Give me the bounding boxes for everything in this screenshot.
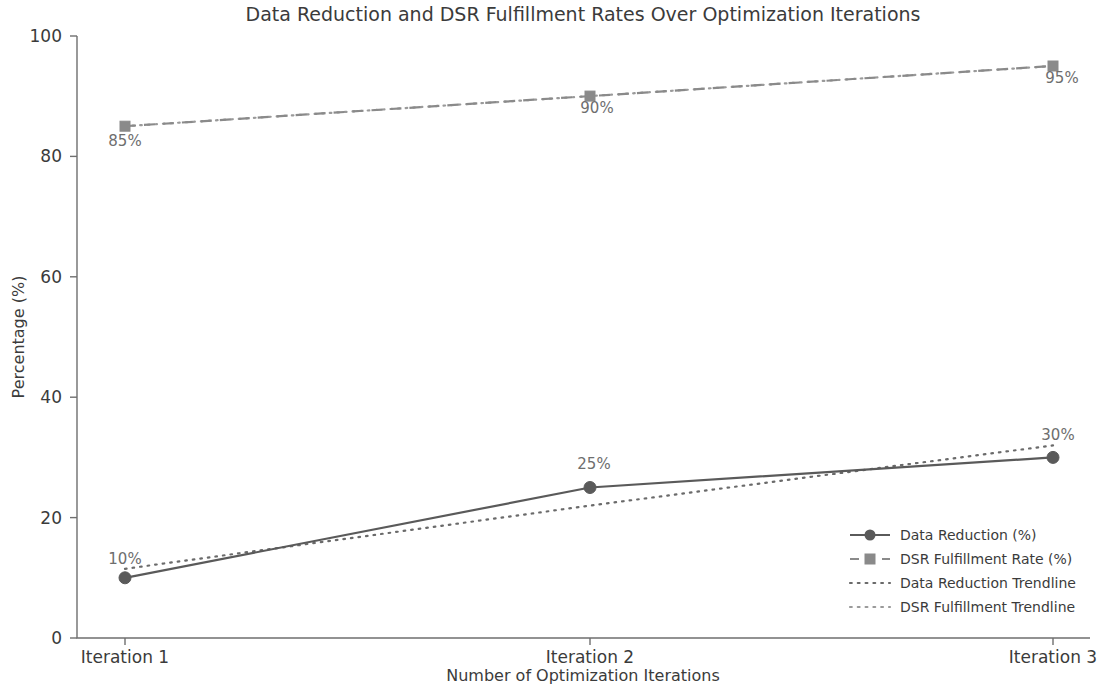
y-tick-label-60: 60 xyxy=(40,267,62,287)
y-tick-label-20: 20 xyxy=(40,508,62,528)
y-tick-label-0: 0 xyxy=(51,628,62,648)
chart-figure: 0 20 40 60 80 100 Iteration 1 Iteration … xyxy=(0,0,1115,684)
data-label-dsr-iteration-3: 95% xyxy=(1045,69,1078,87)
y-tick-marks xyxy=(70,36,77,638)
legend-label-dsr-fulfillment-trendline: DSR Fulfillment Trendline xyxy=(900,599,1075,615)
chart-title: Data Reduction and DSR Fulfillment Rates… xyxy=(246,3,921,25)
data-label-dsr-iteration-1: 85% xyxy=(108,132,141,150)
x-axis-title: Number of Optimization Iterations xyxy=(446,666,720,684)
legend-marker-square-icon xyxy=(865,554,876,565)
x-tick-label-iteration-3: Iteration 3 xyxy=(1009,647,1097,667)
legend-label-data-reduction-trendline: Data Reduction Trendline xyxy=(900,575,1076,591)
chart-legend[interactable]: Data Reduction (%) DSR Fulfillment Rate … xyxy=(838,518,1098,616)
data-label-data-reduction-iteration-3: 30% xyxy=(1041,426,1074,444)
data-label-data-reduction-iteration-2: 25% xyxy=(577,455,610,473)
line-chart-canvas: 0 20 40 60 80 100 Iteration 1 Iteration … xyxy=(0,0,1115,684)
legend-marker-circle-icon xyxy=(865,530,876,541)
data-label-data-reduction-iteration-1: 10% xyxy=(108,550,141,568)
legend-label-dsr-fulfillment-rate: DSR Fulfillment Rate (%) xyxy=(900,551,1072,567)
x-tick-label-iteration-2: Iteration 2 xyxy=(546,647,634,667)
legend-label-data-reduction: Data Reduction (%) xyxy=(900,527,1037,543)
x-tick-label-iteration-1: Iteration 1 xyxy=(81,647,169,667)
data-label-dsr-iteration-2: 90% xyxy=(580,99,613,117)
y-tick-label-80: 80 xyxy=(40,146,62,166)
x-tick-marks xyxy=(125,638,1053,645)
y-tick-label-40: 40 xyxy=(40,387,62,407)
y-axis-title: Percentage (%) xyxy=(9,276,28,399)
y-tick-label-100: 100 xyxy=(30,26,62,46)
